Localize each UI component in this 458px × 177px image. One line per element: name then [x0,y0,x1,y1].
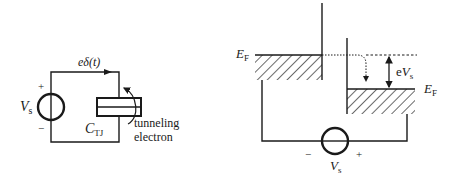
left-fermi-level-label: EF [235,46,249,63]
source-voltage-label: Vs [20,99,33,116]
band-source-plus-sign: + [356,148,362,160]
diagram-canvas: + − Vs eδ(t) CTJ tunneling electron [0,0,458,177]
left-electrode-filled-states [255,55,322,80]
current-arrow-icon [104,69,112,75]
band-source-voltage-label: Vs [330,158,342,175]
tunneling-label-line2: electron [134,130,173,144]
source-plus-sign: + [38,80,44,92]
tunneling-path-arrow-icon [363,76,369,82]
source-minus-sign: − [38,122,44,134]
band-source-minus-sign: − [305,148,311,160]
bias-energy-label: eVs [396,64,414,81]
right-fermi-level-label: EF [423,81,437,98]
energy-band-diagram: EF EF eVs − + Vs [235,3,437,175]
current-label: eδ(t) [78,55,100,69]
tunneling-label-line1: tunneling [134,116,179,130]
capacitor-label: CTJ [85,121,104,138]
right-electrode-filled-states [347,89,415,114]
tunneling-path-dotted [322,55,366,77]
tunnel-junction-circuit: + − Vs eδ(t) CTJ tunneling electron [20,55,179,144]
